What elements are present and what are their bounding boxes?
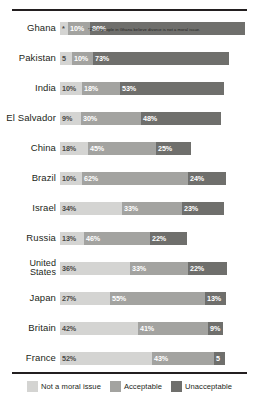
bar-segment-value: 34%: [60, 204, 76, 213]
legend-label: Unacceptable: [185, 382, 232, 391]
bar-segment-value: 25%: [156, 144, 172, 153]
bar-segment-value: 43%: [152, 354, 168, 363]
bar-segment: 36%: [60, 262, 130, 275]
stacked-bar: 18%45%25%: [60, 142, 191, 155]
bar-segment-value: 73%: [93, 54, 109, 63]
bar-segment-value: 18%: [60, 144, 76, 153]
bar-segment: 34%: [60, 202, 122, 215]
bar-segment-value: 45%: [88, 144, 104, 153]
bar-segment: 52%: [60, 352, 152, 365]
row-label: Ghana: [0, 23, 60, 33]
bar-segment-value: 18%: [82, 84, 98, 93]
bar-segment: 73%: [93, 52, 229, 65]
stacked-bar: 10%62%24%: [60, 172, 226, 185]
bar-segment-value: 36%: [60, 264, 76, 273]
bar-segment: 33%: [122, 202, 182, 215]
bar-segment-value: 9%: [208, 324, 220, 333]
bar-segment: 25%: [156, 142, 191, 155]
chart-row: El Salvador9%30%48%: [0, 103, 259, 133]
chart-row: India10%18%53%: [0, 73, 259, 103]
legend-swatch: [171, 381, 182, 392]
row-label: El Salvador: [0, 113, 60, 123]
bar-segment: 53%: [120, 82, 224, 95]
stacked-bar: 9%30%48%: [60, 112, 221, 125]
legend-item: Acceptable: [110, 381, 162, 392]
row-label: Japan: [0, 293, 60, 303]
bar-segment: 22%: [150, 232, 187, 245]
bar-segment-value: 10%: [68, 24, 84, 33]
bar-segment-value: 5: [60, 54, 66, 63]
bar-segment: 10%: [72, 52, 93, 65]
bar-segment: 46%: [84, 232, 150, 245]
chart-row: UnitedStates36%33%22%: [0, 253, 259, 283]
stacked-bar: 34%33%23%: [60, 202, 224, 215]
bar-segment: 18%: [60, 142, 88, 155]
row-label: Britain: [0, 323, 60, 333]
legend-item: Unacceptable: [171, 381, 232, 392]
bar-segment-value: 9%: [60, 114, 72, 123]
bar-segment: 22%: [188, 262, 227, 275]
row-label: China: [0, 143, 60, 153]
stacked-bar: 27%55%13%: [60, 292, 226, 305]
bar-segment-value: *: [60, 24, 65, 33]
chart-row: Pakistan510%73%: [0, 43, 259, 73]
row-label: Brazil: [0, 173, 60, 183]
bar-segment-value: 52%: [60, 354, 76, 363]
bar-segment: 41%: [138, 322, 208, 335]
bar-segment: 24%: [188, 172, 226, 185]
bar-segment-value: 23%: [182, 204, 198, 213]
legend-label: Not a moral issue: [41, 382, 101, 391]
bar-segment-value: 10%: [60, 84, 76, 93]
bar-segment-value: 55%: [110, 294, 126, 303]
chart-row: China18%45%25%: [0, 133, 259, 163]
stacked-bar-chart: Ghana*10%80%Pakistan510%73%India10%18%53…: [0, 13, 259, 373]
chart-row: Japan27%55%13%: [0, 283, 259, 313]
bar-segment: 62%: [82, 172, 188, 185]
bar-segment-value: 22%: [188, 264, 204, 273]
chart-row: France52%43%5: [0, 343, 259, 373]
bar-segment-value: 42%: [60, 324, 76, 333]
bar-segment: 5: [60, 52, 72, 65]
bar-segment: 30%: [81, 112, 141, 125]
bar-segment: 10%: [60, 172, 82, 185]
bar-segment-value: 33%: [130, 264, 146, 273]
legend-item: Not a moral issue: [27, 381, 101, 392]
bar-segment: 23%: [182, 202, 224, 215]
stacked-bar: 52%43%5: [60, 352, 225, 365]
chart-row: Britain42%41%9%: [0, 313, 259, 343]
bar-segment: 9%: [60, 112, 81, 125]
stacked-bar: 42%41%9%: [60, 322, 223, 335]
bar-segment-value: 46%: [84, 234, 100, 243]
stacked-bar: 510%73%: [60, 52, 229, 65]
bar-segment: 33%: [130, 262, 188, 275]
chart-row: Russia13%46%22%: [0, 223, 259, 253]
bar-segment-value: 13%: [60, 234, 76, 243]
bar-segment-value: 24%: [188, 174, 204, 183]
bar-segment: 55%: [110, 292, 205, 305]
chart-row: Israel34%33%23%: [0, 193, 259, 223]
row-label: Israel: [0, 203, 60, 213]
row-label: France: [0, 353, 60, 363]
bar-segment: *: [60, 22, 68, 35]
row-label: Pakistan: [0, 53, 60, 63]
bar-segment-value: 10%: [72, 54, 88, 63]
bar-segment-value: 33%: [122, 204, 138, 213]
row-label: UnitedStates: [0, 259, 60, 278]
bar-segment: 27%: [60, 292, 110, 305]
stacked-bar: 13%46%22%: [60, 232, 187, 245]
bar-segment: 48%: [141, 112, 221, 125]
legend-label: Acceptable: [124, 382, 162, 391]
bar-segment: 10%: [60, 82, 82, 95]
bar-segment-value: 53%: [120, 84, 136, 93]
bar-segment-value: 5: [214, 354, 220, 363]
top-divider: [12, 9, 247, 11]
bar-segment: 18%: [82, 82, 120, 95]
chart-row: Brazil10%62%24%: [0, 163, 259, 193]
bar-segment: 13%: [205, 292, 226, 305]
ghana-footnote: *2% of people in Ghana believe divorce i…: [88, 27, 200, 32]
stacked-bar: 10%18%53%: [60, 82, 224, 95]
legend-swatch: [110, 381, 121, 392]
stacked-bar: 36%33%22%: [60, 262, 227, 275]
chart-legend: Not a moral issueAcceptableUnacceptable: [0, 381, 259, 392]
bar-segment-value: 13%: [205, 294, 221, 303]
